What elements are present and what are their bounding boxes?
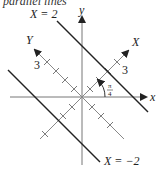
line-X-equals-minus-2-label: X = −2 — [103, 154, 140, 168]
rotated-x-axis-label: X — [131, 35, 140, 49]
rotated-axes-diagram: x y X 3 Y 3 X = 2 X = −2 π 4 — [0, 0, 160, 178]
angle-numerator: π — [108, 82, 112, 90]
angle-denominator: 4 — [108, 90, 112, 98]
rotated-x-axis — [40, 51, 128, 139]
rotated-x-tick-label: 3 — [122, 63, 128, 77]
line-X-equals-2-label: X = 2 — [29, 7, 57, 21]
x-axis-label: x — [149, 90, 156, 104]
line-X-equals-minus-2 — [8, 70, 100, 162]
rotated-y-tick-label: 3 — [34, 58, 40, 72]
y-axis-label: y — [78, 3, 85, 17]
rotated-y-axis-label: Y — [26, 33, 34, 47]
